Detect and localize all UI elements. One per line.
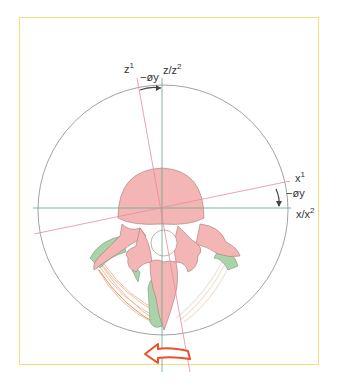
label-theta-top: −øy [140, 71, 159, 83]
label-theta-right: −øy [286, 187, 305, 199]
curved-arrow-left-icon [145, 344, 190, 363]
spinal-canal [151, 230, 177, 256]
muscle-fibers-right [176, 262, 230, 322]
label-z1: z1 [124, 61, 134, 75]
label-x1: x1 [295, 170, 305, 184]
label-x-x2: x/x2 [296, 206, 315, 220]
label-z-z2: z/z2 [163, 62, 182, 76]
arrowhead-top-icon [156, 85, 161, 91]
arrowhead-right-icon [276, 201, 282, 207]
